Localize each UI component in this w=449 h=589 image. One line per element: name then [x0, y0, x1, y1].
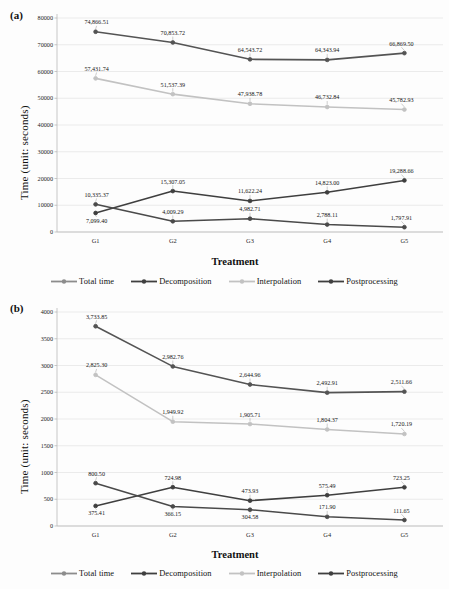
legend-marker-icon	[229, 277, 255, 286]
y-axis-tick: 2500	[41, 388, 53, 395]
y-axis-tick: 0	[50, 522, 53, 529]
y-axis-tick: 3500	[41, 335, 53, 342]
y-axis-tick: 80000	[38, 14, 53, 21]
data-label: 111.65	[393, 508, 409, 514]
y-axis-tick: 0	[50, 228, 53, 235]
data-label: 11,622.24	[238, 188, 262, 194]
data-point-marker	[171, 420, 175, 424]
legend-item[interactable]: Decomposition	[131, 569, 211, 578]
panel-b-x-axis-label: Treatment	[30, 549, 440, 560]
legend-marker-icon	[51, 277, 77, 286]
data-label: 800.50	[88, 471, 105, 477]
legend-item[interactable]: Postprocessing	[318, 277, 398, 286]
data-point-marker	[248, 422, 252, 426]
y-axis-tick: 1500	[41, 442, 53, 449]
data-point-marker	[325, 515, 329, 519]
data-point-marker	[94, 504, 98, 508]
data-point-marker	[171, 219, 175, 223]
chart-panel-a: (a) Time (unit: seconds) 010000200003000…	[0, 0, 449, 294]
data-point-marker	[248, 499, 252, 503]
data-point-marker	[94, 373, 98, 377]
y-axis-tick: 20000	[38, 175, 53, 182]
legend-item[interactable]: Postprocessing	[318, 569, 398, 578]
data-label: 3,733.85	[86, 314, 107, 320]
chart-panel-b: (b) Time (unit: seconds) 050010001500200…	[0, 294, 449, 589]
data-label: 1,905.71	[239, 412, 260, 418]
legend-item[interactable]: Total time	[51, 277, 114, 286]
y-axis-tick: 2000	[41, 415, 53, 422]
label-leader-line	[96, 198, 97, 201]
legend-label: Total time	[79, 277, 114, 286]
data-point-marker	[94, 202, 98, 206]
x-axis-tick: G4	[323, 237, 332, 244]
data-label: 19,288.66	[389, 168, 413, 174]
data-label: 1,949.92	[162, 409, 183, 415]
data-point-marker	[94, 324, 98, 328]
data-label: 74,866.51	[84, 19, 108, 25]
x-axis-tick: G2	[169, 531, 177, 538]
data-point-marker	[248, 383, 252, 387]
data-label: 2,511.66	[391, 379, 412, 385]
label-leader-line	[96, 477, 97, 480]
y-axis-tick: 3000	[41, 362, 53, 369]
data-label: 724.98	[164, 475, 181, 481]
panel-a-x-axis-label: Treatment	[30, 256, 440, 267]
data-point-marker	[248, 57, 252, 61]
data-point-marker	[94, 481, 98, 485]
legend-item[interactable]: Interpolation	[229, 277, 302, 286]
data-point-marker	[325, 190, 329, 194]
data-label: 70,853.72	[161, 30, 185, 36]
label-leader-line	[401, 481, 404, 484]
label-leader-line	[401, 175, 404, 178]
legend-marker-icon	[318, 277, 344, 286]
y-axis-tick: 40000	[38, 121, 53, 128]
data-point-marker	[171, 92, 175, 96]
data-point-marker	[248, 508, 252, 512]
data-label: 473.93	[242, 488, 259, 494]
data-label: 366.15	[164, 511, 181, 517]
data-label: 51,537.39	[161, 82, 185, 88]
data-label: 1,720.19	[391, 421, 412, 427]
data-point-marker	[325, 493, 329, 497]
data-point-marker	[403, 179, 407, 183]
legend-label: Decomposition	[159, 569, 211, 578]
x-axis-tick: G2	[169, 237, 177, 244]
legend-label: Postprocessing	[346, 277, 398, 286]
label-leader-line	[96, 72, 97, 75]
x-axis-tick: G1	[92, 237, 100, 244]
label-leader-line	[401, 428, 404, 431]
data-label: 57,431.74	[84, 66, 108, 72]
legend-item[interactable]: Total time	[51, 569, 114, 578]
legend-label: Interpolation	[257, 277, 302, 286]
data-point-marker	[403, 390, 407, 394]
data-point-marker	[171, 505, 175, 509]
data-label: 47,938.78	[238, 91, 262, 97]
data-label: 15,307.05	[161, 179, 185, 185]
legend-marker-icon	[229, 569, 255, 578]
figure-container: (a) Time (unit: seconds) 010000200003000…	[0, 0, 449, 589]
data-label: 4,009.29	[162, 209, 183, 215]
data-point-marker	[325, 105, 329, 109]
data-label: 1,797.91	[391, 215, 412, 221]
data-label: 304.58	[242, 514, 259, 520]
data-label: 64,343.94	[315, 47, 339, 53]
legend-label: Interpolation	[257, 569, 302, 578]
y-axis-tick: 50000	[38, 94, 53, 101]
data-point-marker	[403, 432, 407, 436]
data-point-marker	[403, 51, 407, 55]
data-label: 66,869.50	[389, 41, 413, 47]
legend-item[interactable]: Interpolation	[229, 569, 302, 578]
legend-item[interactable]: Decomposition	[131, 277, 211, 286]
data-point-marker	[171, 189, 175, 193]
legend-label: Decomposition	[159, 277, 211, 286]
data-point-marker	[403, 518, 407, 522]
y-axis-tick: 70000	[38, 41, 53, 48]
data-label: 4,982.71	[239, 206, 260, 212]
data-point-marker	[248, 102, 252, 106]
data-label: 171.90	[319, 504, 336, 510]
x-axis-tick: G5	[400, 531, 408, 538]
panel-a-legend: Total timeDecompositionInterpolationPost…	[0, 277, 449, 286]
y-axis-tick: 500	[44, 495, 53, 502]
legend-label: Total time	[79, 569, 114, 578]
data-point-marker	[171, 41, 175, 45]
